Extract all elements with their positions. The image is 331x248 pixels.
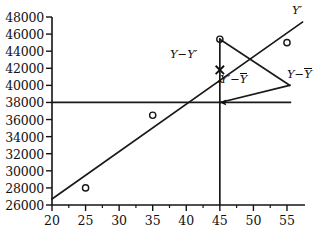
y-tick-label: 48000 (0, 10, 44, 25)
regression-decomposition-figure: 2600028000300003200034000360003800040000… (0, 0, 331, 248)
total-deviation-label: Y−Y (287, 68, 312, 81)
y-tick-label: 32000 (0, 147, 44, 162)
explained-deviation-connector (220, 85, 290, 102)
explained-deviation-label: Y′−Y (220, 73, 247, 86)
y-tick-label: 46000 (0, 27, 44, 42)
y-prime-line-label: Y′ (292, 5, 302, 17)
data-point (82, 185, 88, 191)
data-point (284, 40, 290, 46)
chart-canvas (0, 0, 331, 248)
y-tick-label: 40000 (0, 78, 44, 93)
y-tick-label: 30000 (0, 164, 44, 179)
y-tick-label: 34000 (0, 130, 44, 145)
y-tick-label: 26000 (0, 198, 44, 213)
data-point (150, 112, 156, 118)
residual-label: Y−Y′ (170, 49, 197, 61)
x-tick-label: 55 (267, 213, 307, 228)
y-tick-label: 38000 (0, 95, 44, 110)
y-tick-label: 36000 (0, 113, 44, 128)
y-tick-label: 42000 (0, 61, 44, 76)
y-tick-label: 44000 (0, 44, 44, 59)
y-axis-ticks (46, 17, 52, 205)
axes-group (52, 17, 305, 205)
y-tick-label: 28000 (0, 181, 44, 196)
